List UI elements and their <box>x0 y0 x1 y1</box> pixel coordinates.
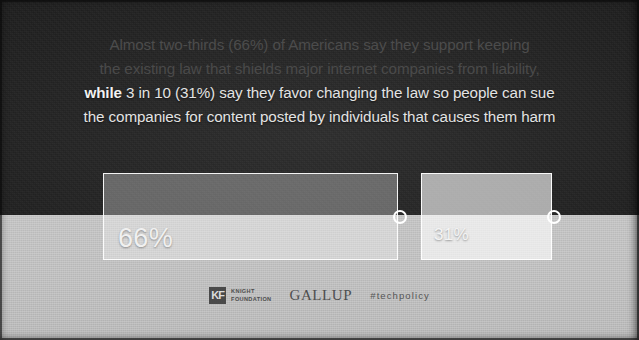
hashtag-techpolicy: #techpolicy <box>370 290 430 301</box>
headline-line-3-rest: 3 in 10 (31%) say they favor changing th… <box>122 84 555 101</box>
gallup-logo: GALLUP <box>289 287 352 304</box>
knight-word-line-2: FOUNDATION <box>231 296 271 303</box>
bar-support-keeping-law: 66% <box>103 173 398 260</box>
headline-emphasis-while: while <box>84 84 121 101</box>
headline-line-3: while 3 in 10 (31%) say they favor chang… <box>0 81 639 105</box>
headline-line-2: the existing law that shields major inte… <box>0 57 639 81</box>
infographic-canvas: Almost two-thirds (66%) of Americans say… <box>0 0 639 340</box>
knight-foundation-mark-icon: KF <box>209 287 226 304</box>
headline-text: Almost two-thirds (66%) of Americans say… <box>0 33 639 129</box>
headline-line-4: the companies for content posted by indi… <box>0 105 639 129</box>
knight-word-line-1: KNIGHT <box>231 288 271 295</box>
knight-foundation-logo: KF KNIGHT FOUNDATION <box>209 287 271 304</box>
bar-label-66: 66% <box>118 223 173 253</box>
bar-label-31: 31% <box>434 225 469 245</box>
bar-endpoint-marker-31 <box>547 210 561 224</box>
bar-favor-changing-law: 31% <box>421 173 552 260</box>
knight-foundation-wordmark: KNIGHT FOUNDATION <box>231 288 271 302</box>
bar-endpoint-marker-66 <box>393 210 407 224</box>
headline-line-1: Almost two-thirds (66%) of Americans say… <box>0 33 639 57</box>
footer-logos: KF KNIGHT FOUNDATION GALLUP #techpolicy <box>0 287 639 304</box>
